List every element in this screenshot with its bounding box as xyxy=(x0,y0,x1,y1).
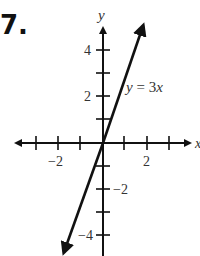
x-axis-label: x xyxy=(194,136,200,151)
line-equation-label: y = 3x xyxy=(124,79,163,95)
y-tick-label-2: 2 xyxy=(84,89,91,104)
x-tick-label-neg2: −2 xyxy=(48,154,63,169)
y-tick-label-neg4: −4 xyxy=(78,228,93,243)
coordinate-plane: −2 2 x 4 2 −2 −4 y y = 3x xyxy=(0,0,200,256)
y-axis: 4 2 −2 −4 y xyxy=(78,7,128,256)
y-tick-label-neg2: −2 xyxy=(113,182,128,197)
y-tick-label-4: 4 xyxy=(84,43,91,58)
x-tick-label-2: 2 xyxy=(143,154,150,169)
y-axis-label: y xyxy=(96,7,105,23)
x-axis: −2 2 x xyxy=(16,136,200,169)
